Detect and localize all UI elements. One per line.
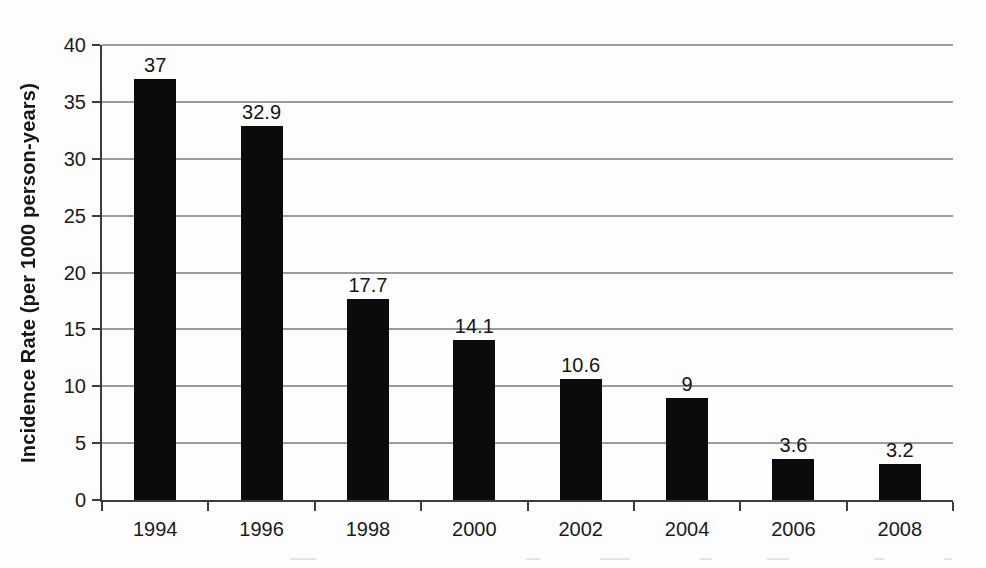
y-axis-tick-marks (92, 45, 100, 500)
x-axis-label: 2008 (847, 517, 953, 541)
y-tick-label: 20 (0, 263, 86, 283)
y-tick-label: 35 (0, 92, 86, 112)
bar-group: 9 (634, 45, 740, 500)
y-tick-mark (92, 499, 100, 501)
x-tick-mark (420, 502, 422, 511)
x-axis-label: 2006 (740, 517, 846, 541)
bar (134, 79, 176, 500)
bar-group: 17.7 (315, 45, 421, 500)
y-tick-label: 25 (0, 206, 86, 226)
y-tick-mark (92, 385, 100, 387)
x-tick-mark (739, 502, 741, 511)
bar-group: 3.2 (847, 45, 953, 500)
y-tick-mark (92, 328, 100, 330)
x-axis-labels: 19941996199820002002200420062008 (102, 517, 953, 543)
bar-value-label: 3.6 (780, 434, 808, 457)
bar-value-label: 37 (144, 54, 166, 77)
x-axis-label: 2002 (528, 517, 634, 541)
bar-value-label: 17.7 (348, 274, 387, 297)
y-tick-mark (92, 442, 100, 444)
x-tick-mark (314, 502, 316, 511)
y-tick-mark (92, 101, 100, 103)
x-axis-label: 1994 (102, 517, 208, 541)
bar-group: 32.9 (208, 45, 314, 500)
y-tick-mark (92, 44, 100, 46)
y-tick-mark (92, 215, 100, 217)
x-axis-label: 1996 (208, 517, 314, 541)
x-tick-mark (633, 502, 635, 511)
x-axis-label: 2004 (634, 517, 740, 541)
bar (772, 459, 814, 500)
y-tick-label: 30 (0, 149, 86, 169)
bar-group: 3.6 (740, 45, 846, 500)
bar (241, 126, 283, 500)
bar (666, 398, 708, 500)
x-tick-mark (846, 502, 848, 511)
bar (560, 379, 602, 500)
cropped-caption-artifact (290, 558, 976, 563)
bar-value-label: 32.9 (242, 101, 281, 124)
y-tick-mark (92, 158, 100, 160)
bar-chart-figure: Incidence Rate (per 1000 person-years) 0… (0, 0, 986, 568)
y-tick-mark (92, 272, 100, 274)
bar-value-label: 14.1 (455, 315, 494, 338)
bar (347, 299, 389, 500)
y-tick-label: 5 (0, 433, 86, 453)
x-tick-mark (527, 502, 529, 511)
x-axis-label: 2000 (421, 517, 527, 541)
x-tick-mark (101, 502, 103, 511)
bar (879, 464, 921, 500)
bar (453, 340, 495, 500)
y-tick-label: 0 (0, 490, 86, 510)
x-axis-tick-marks (102, 502, 953, 511)
bar-value-label: 10.6 (561, 354, 600, 377)
bar-value-label: 3.2 (886, 439, 914, 462)
x-tick-mark (207, 502, 209, 511)
bar-group: 37 (102, 45, 208, 500)
y-axis-tick-labels: 0510152025303540 (0, 45, 86, 500)
y-tick-label: 10 (0, 376, 86, 396)
x-tick-mark (952, 502, 954, 511)
bar-group: 10.6 (528, 45, 634, 500)
bar-value-label: 9 (682, 373, 693, 396)
bar-group: 14.1 (421, 45, 527, 500)
x-axis-label: 1998 (315, 517, 421, 541)
plot-area: 3732.917.714.110.693.63.2 (100, 45, 953, 502)
y-tick-label: 40 (0, 35, 86, 55)
y-tick-label: 15 (0, 319, 86, 339)
